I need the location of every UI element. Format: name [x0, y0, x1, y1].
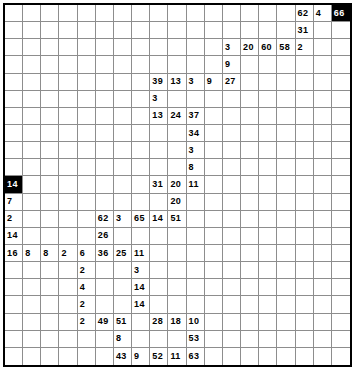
- grid-cell-empty[interactable]: [150, 125, 168, 142]
- grid-cell-empty[interactable]: [314, 194, 332, 211]
- grid-cell-empty[interactable]: [23, 348, 41, 365]
- grid-cell-empty[interactable]: [277, 348, 295, 365]
- grid-cell-empty[interactable]: [296, 194, 314, 211]
- grid-cell-empty[interactable]: [168, 262, 186, 279]
- grid-cell-empty[interactable]: [332, 314, 350, 331]
- grid-cell-empty[interactable]: [259, 159, 277, 176]
- grid-cell-empty[interactable]: [259, 74, 277, 91]
- grid-cell-empty[interactable]: [168, 142, 186, 159]
- grid-cell-empty[interactable]: [5, 331, 23, 348]
- grid-cell-empty[interactable]: [332, 211, 350, 228]
- grid-cell-empty[interactable]: [277, 194, 295, 211]
- grid-cell-filled[interactable]: 51: [168, 211, 186, 228]
- grid-cell-empty[interactable]: [132, 331, 150, 348]
- grid-cell-empty[interactable]: [187, 56, 205, 73]
- grid-cell-empty[interactable]: [332, 331, 350, 348]
- grid-cell-empty[interactable]: [5, 56, 23, 73]
- grid-cell-filled[interactable]: 3: [223, 39, 241, 56]
- grid-cell-empty[interactable]: [132, 39, 150, 56]
- grid-cell-empty[interactable]: [5, 39, 23, 56]
- grid-cell-empty[interactable]: [132, 91, 150, 108]
- grid-cell-empty[interactable]: [314, 211, 332, 228]
- grid-cell-empty[interactable]: [241, 245, 259, 262]
- grid-cell-empty[interactable]: [332, 176, 350, 193]
- grid-cell-empty[interactable]: [205, 279, 223, 296]
- grid-cell-empty[interactable]: [96, 39, 114, 56]
- grid-cell-empty[interactable]: [296, 176, 314, 193]
- grid-cell-empty[interactable]: [78, 159, 96, 176]
- grid-cell-empty[interactable]: [41, 228, 59, 245]
- grid-cell-empty[interactable]: [241, 159, 259, 176]
- grid-cell-empty[interactable]: [5, 348, 23, 365]
- grid-cell-empty[interactable]: [187, 279, 205, 296]
- grid-cell-empty[interactable]: [259, 262, 277, 279]
- grid-cell-empty[interactable]: [168, 39, 186, 56]
- grid-cell-empty[interactable]: [96, 296, 114, 313]
- grid-cell-empty[interactable]: [78, 142, 96, 159]
- grid-cell-empty[interactable]: [332, 108, 350, 125]
- grid-cell-filled[interactable]: 51: [114, 314, 132, 331]
- grid-cell-empty[interactable]: [296, 279, 314, 296]
- grid-cell-filled[interactable]: 63: [187, 348, 205, 365]
- grid-cell-empty[interactable]: [241, 56, 259, 73]
- grid-cell-empty[interactable]: [23, 279, 41, 296]
- grid-cell-empty[interactable]: [168, 279, 186, 296]
- grid-cell-empty[interactable]: [132, 228, 150, 245]
- grid-cell-empty[interactable]: [132, 108, 150, 125]
- grid-cell-empty[interactable]: [314, 125, 332, 142]
- grid-cell-empty[interactable]: [59, 176, 77, 193]
- grid-cell-filled[interactable]: 8: [41, 245, 59, 262]
- grid-cell-empty[interactable]: [23, 5, 41, 22]
- grid-cell-empty[interactable]: [223, 125, 241, 142]
- grid-cell-empty[interactable]: [205, 314, 223, 331]
- grid-cell-empty[interactable]: [41, 74, 59, 91]
- grid-cell-empty[interactable]: [23, 176, 41, 193]
- grid-cell-empty[interactable]: [5, 159, 23, 176]
- grid-cell-empty[interactable]: [59, 211, 77, 228]
- grid-cell-empty[interactable]: [259, 125, 277, 142]
- grid-cell-empty[interactable]: [23, 108, 41, 125]
- grid-cell-filled[interactable]: 20: [241, 39, 259, 56]
- grid-cell-filled[interactable]: 3: [150, 91, 168, 108]
- grid-cell-empty[interactable]: [241, 5, 259, 22]
- grid-cell-empty[interactable]: [5, 262, 23, 279]
- grid-cell-empty[interactable]: [205, 142, 223, 159]
- grid-cell-empty[interactable]: [59, 296, 77, 313]
- grid-cell-filled[interactable]: 20: [168, 176, 186, 193]
- grid-cell-empty[interactable]: [5, 91, 23, 108]
- grid-cell-empty[interactable]: [205, 194, 223, 211]
- grid-cell-empty[interactable]: [259, 296, 277, 313]
- grid-cell-empty[interactable]: [96, 5, 114, 22]
- grid-cell-empty[interactable]: [114, 5, 132, 22]
- grid-cell-empty[interactable]: [96, 176, 114, 193]
- grid-cell-empty[interactable]: [187, 262, 205, 279]
- grid-cell-empty[interactable]: [23, 22, 41, 39]
- grid-cell-empty[interactable]: [168, 22, 186, 39]
- grid-cell-empty[interactable]: [5, 142, 23, 159]
- grid-cell-filled[interactable]: 4: [314, 5, 332, 22]
- grid-cell-empty[interactable]: [277, 125, 295, 142]
- grid-cell-empty[interactable]: [314, 91, 332, 108]
- grid-cell-empty[interactable]: [314, 296, 332, 313]
- grid-cell-filled[interactable]: 60: [259, 39, 277, 56]
- grid-cell-empty[interactable]: [241, 279, 259, 296]
- grid-cell-empty[interactable]: [332, 56, 350, 73]
- grid-cell-empty[interactable]: [259, 194, 277, 211]
- grid-cell-empty[interactable]: [59, 108, 77, 125]
- grid-cell-empty[interactable]: [332, 39, 350, 56]
- grid-cell-empty[interactable]: [277, 314, 295, 331]
- grid-cell-empty[interactable]: [241, 108, 259, 125]
- grid-cell-empty[interactable]: [205, 228, 223, 245]
- grid-cell-empty[interactable]: [168, 56, 186, 73]
- grid-cell-empty[interactable]: [150, 245, 168, 262]
- grid-cell-empty[interactable]: [150, 56, 168, 73]
- grid-cell-empty[interactable]: [187, 211, 205, 228]
- grid-cell-empty[interactable]: [150, 331, 168, 348]
- grid-cell-empty[interactable]: [41, 331, 59, 348]
- grid-cell-empty[interactable]: [96, 262, 114, 279]
- grid-cell-filled[interactable]: 14: [150, 211, 168, 228]
- grid-cell-empty[interactable]: [114, 262, 132, 279]
- grid-cell-empty[interactable]: [259, 108, 277, 125]
- grid-cell-empty[interactable]: [332, 74, 350, 91]
- grid-cell-empty[interactable]: [314, 22, 332, 39]
